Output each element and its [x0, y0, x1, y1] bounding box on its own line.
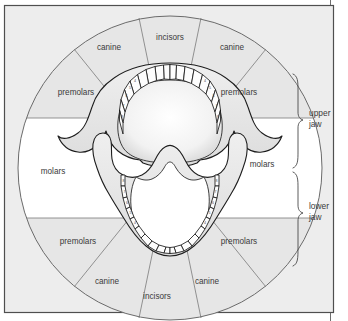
tooth-number: 8: [123, 179, 125, 183]
dental-arch-diagram: 4 5 6 7 8 4 5 6 7 8: [0, 0, 348, 321]
tooth-number: 4: [134, 79, 136, 83]
tooth-number: 6: [126, 94, 128, 98]
sector-label-premolars-upper-left: premolars: [58, 88, 94, 97]
sector-label-premolars-upper-right: premolars: [221, 88, 257, 97]
sector-label-molars-left: molars: [41, 167, 66, 176]
sector-label-premolars-lower-right: premolars: [221, 237, 257, 246]
tooth-number: 7: [123, 104, 125, 108]
tooth-number: 4: [204, 79, 206, 83]
tooth-number: 6: [212, 201, 214, 205]
tooth-number: 5: [209, 86, 211, 90]
sector-label-incisors-lower: incisors: [143, 292, 171, 301]
tooth-number: 6: [126, 201, 128, 205]
lower-jaw-label-line2: jaw: [308, 212, 323, 222]
sector-label-canine-upper-left: canine: [97, 43, 122, 52]
tooth-number: 8: [217, 115, 219, 119]
tooth-number: 7: [215, 190, 217, 194]
sector-label-canine-lower-left: canine: [95, 277, 120, 286]
sector-label-premolars-lower-left: premolars: [60, 237, 96, 246]
tooth-number: 5: [130, 211, 132, 215]
tooth-number: 5: [209, 211, 211, 215]
tooth-number: 6: [213, 94, 215, 98]
upper-jaw-label-line2: jaw: [308, 119, 323, 129]
tooth-number: 8: [121, 115, 123, 119]
sector-label-incisors-upper: incisors: [156, 33, 184, 42]
tooth-number: 8: [216, 179, 218, 183]
sector-label-canine-lower-right: canine: [195, 277, 220, 286]
tooth-number: 4: [134, 221, 136, 225]
sector-label-canine-upper-right: canine: [220, 43, 245, 52]
tooth-number: 7: [124, 190, 126, 194]
figure-page: 4 5 6 7 8 4 5 6 7 8: [0, 0, 348, 321]
lower-jaw-label-line1: lower: [309, 201, 329, 211]
sector-label-molars-right: molars: [250, 160, 275, 169]
tooth-number: 5: [129, 86, 131, 90]
upper-jaw-label-line1: upper: [309, 108, 331, 118]
tooth-number: 4: [204, 221, 206, 225]
tooth-number: 7: [216, 104, 218, 108]
